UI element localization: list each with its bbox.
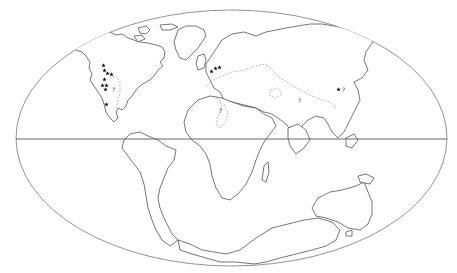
world-map: ? ? ? ? xyxy=(0,0,457,273)
uncertain-mark-africa: ? xyxy=(219,107,222,114)
uncertain-mark-central-asia: ? xyxy=(298,97,301,104)
uncertain-mark-north-america: ? xyxy=(112,86,115,93)
uncertain-mark-east-asia: ? xyxy=(342,86,345,93)
